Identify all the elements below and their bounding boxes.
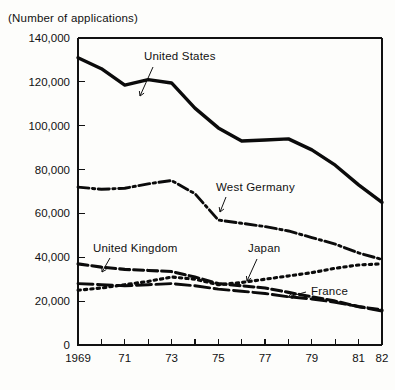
y-tick-label: 60,000	[35, 207, 70, 219]
series-label-united-kingdom: United Kingdom	[93, 242, 178, 254]
y-tick-label: 140,000	[28, 32, 70, 44]
annotation-group: United StatesWest GermanyUnited KingdomJ…	[93, 50, 348, 298]
x-tick-label: 73	[165, 352, 178, 364]
series-label-united-states: United States	[144, 50, 216, 62]
line-chart: (Number of applications) 020,00040,00060…	[0, 0, 395, 390]
y-tick-label: 40,000	[35, 251, 70, 263]
y-axis-tick-group: 020,00040,00060,00080,000100,000120,0001…	[28, 32, 85, 351]
chart-axis-title: (Number of applications)	[8, 12, 138, 24]
x-tick-label: 82	[376, 352, 389, 364]
x-tick-label: 81	[352, 352, 365, 364]
x-tick-label: 75	[212, 352, 225, 364]
chart-container: (Number of applications) 020,00040,00060…	[0, 0, 395, 390]
x-axis-tick-group: 196971737577798182	[65, 339, 388, 364]
series-label-japan: Japan	[248, 242, 280, 254]
series-label-france: France	[311, 285, 348, 297]
y-tick-label: 120,000	[28, 76, 70, 88]
y-tick-label: 80,000	[35, 164, 70, 176]
leader-line-japan	[247, 259, 257, 281]
x-tick-label: 71	[118, 352, 131, 364]
x-tick-label: 77	[259, 352, 272, 364]
x-tick-label: 1969	[65, 352, 91, 364]
x-tick-label: 79	[305, 352, 318, 364]
y-tick-label: 100,000	[28, 120, 70, 132]
y-tick-label: 0	[64, 339, 70, 351]
series-label-west-germany: West Germany	[216, 181, 295, 193]
y-tick-label: 20,000	[35, 295, 70, 307]
